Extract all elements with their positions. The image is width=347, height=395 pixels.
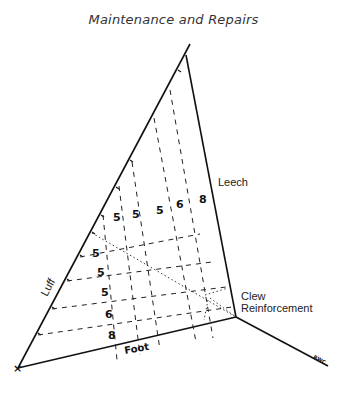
- leech-label: Leech: [218, 176, 248, 188]
- clew-label-line1: Clew: [241, 290, 266, 302]
- svg-text:5: 5: [132, 208, 140, 221]
- clew-label-line2: Reinforcement: [241, 302, 313, 314]
- reinforcement-lines: [92, 233, 236, 320]
- svg-text:6: 6: [176, 198, 184, 211]
- svg-text:8: 8: [108, 329, 116, 342]
- horizontal-panel-lines: [38, 234, 232, 335]
- svg-text:5: 5: [97, 266, 105, 279]
- vertical-panel-lines: [103, 90, 213, 360]
- sail-diagram: 5 5 5 6 8 5 5 5 6 8 Leech Luff Foot Clew…: [0, 0, 347, 395]
- svg-text:5: 5: [92, 247, 100, 260]
- foot-edge: [18, 317, 236, 368]
- svg-text:8: 8: [199, 193, 207, 206]
- luff-ticks: [38, 70, 181, 335]
- svg-text:5: 5: [156, 204, 164, 217]
- luff-label: Luff: [38, 275, 58, 297]
- signature-label: RWC: [313, 354, 328, 366]
- horizontal-panel-numbers: 5 5 5 6 8: [92, 247, 116, 342]
- svg-text:6: 6: [105, 308, 113, 321]
- svg-text:5: 5: [113, 211, 121, 224]
- luff-edge: [18, 44, 190, 368]
- svg-text:5: 5: [101, 286, 109, 299]
- tack-marker-icon: ×: [13, 362, 22, 375]
